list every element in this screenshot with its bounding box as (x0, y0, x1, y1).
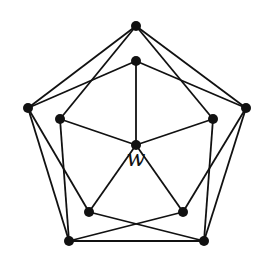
graph-edge (69, 212, 183, 241)
graph-edge (136, 26, 246, 108)
graph-edge (89, 212, 204, 241)
graph-node (64, 236, 74, 246)
graph-node (241, 103, 251, 113)
graph-node (55, 114, 65, 124)
node-label-w: w (127, 146, 146, 171)
graph-node (131, 56, 141, 66)
graph-edge (28, 26, 136, 108)
graph-edge (60, 119, 136, 145)
graph-edge (28, 108, 69, 241)
graph-node (178, 207, 188, 217)
graph-edge (204, 108, 246, 241)
graph-node (84, 207, 94, 217)
graph-node (199, 236, 209, 246)
graph-edge (136, 119, 213, 145)
graph-node (23, 103, 33, 113)
graph-node (131, 21, 141, 31)
graph-node (208, 114, 218, 124)
graph-edge (204, 119, 213, 241)
graph-edge (60, 119, 69, 241)
graph-nodes (23, 21, 251, 246)
graph-diagram: w (0, 0, 269, 263)
graph-edge (60, 26, 136, 119)
graph-edge (136, 26, 213, 119)
